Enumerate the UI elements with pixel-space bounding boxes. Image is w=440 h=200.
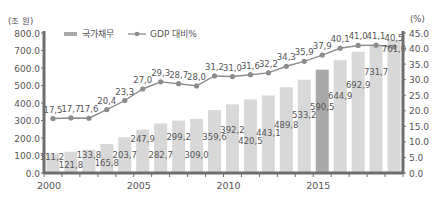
legend-bar-swatch [64, 32, 77, 36]
legend-bar-label: 국가채무 [82, 29, 114, 39]
bar-value-label: 692,9 [346, 80, 370, 90]
right-tick-label: 0.0 [409, 169, 424, 179]
bar [154, 124, 167, 173]
line-value-label: 31,6 [241, 61, 260, 71]
bar [190, 119, 203, 173]
line-value-label: 41,0 [349, 31, 368, 41]
x-tick-label: 2015 [306, 180, 330, 191]
legend: 국가채무GDP 대비% [64, 29, 197, 39]
right-tick-label: 20.0 [409, 106, 429, 116]
line-value-label: 32,2 [259, 59, 278, 69]
bar [370, 45, 383, 173]
left-tick-label: 100.0 [14, 151, 40, 161]
left-tick-label: 400.0 [14, 99, 40, 109]
bar-value-label: 731,7 [364, 67, 388, 77]
debt-chart: 111,2121,8133,8165,8203,7247,9282,7299,2… [0, 0, 440, 200]
line-value-label: 41,1 [367, 31, 386, 41]
bar-value-label: 282,7 [149, 150, 173, 160]
line-marker [194, 83, 199, 88]
x-tick-label: 2010 [216, 180, 240, 191]
left-tick-label: 200.0 [14, 134, 40, 144]
line-marker [284, 64, 289, 69]
line-value-label: 17,6 [79, 104, 98, 114]
bar-value-label: 644,9 [328, 91, 352, 101]
line-marker [104, 107, 109, 112]
line-marker [212, 73, 217, 78]
bar [280, 87, 293, 173]
bar-value-label: 203,7 [113, 150, 137, 160]
line-marker [302, 59, 307, 64]
bar-value-label: 392,2 [220, 125, 244, 135]
line-marker [320, 52, 325, 57]
line-value-label: 40,5 [385, 33, 404, 43]
line-marker [230, 74, 235, 79]
data-labels: 111,2121,8133,8165,8203,7247,9282,7299,2… [40, 31, 406, 170]
chart-canvas: 111,2121,8133,8165,8203,7247,9282,7299,2… [0, 0, 440, 200]
left-tick-label: 600.0 [14, 64, 40, 74]
line-marker [68, 115, 73, 120]
line-marker [140, 86, 145, 91]
bar [352, 52, 365, 173]
bar [334, 60, 347, 173]
line-marker [176, 81, 181, 86]
bar [316, 70, 329, 173]
bar [172, 121, 185, 173]
left-tick-label: 700.0 [14, 46, 40, 56]
bar [298, 80, 311, 173]
line-value-label: 17,5 [44, 105, 63, 115]
line-value-label: 31,2 [205, 62, 224, 72]
legend-line-label: GDP 대비% [150, 29, 197, 39]
right-axis-unit: (%) [410, 14, 425, 24]
bar-value-label: 309,0 [184, 150, 208, 160]
right-tick-label: 5.0 [409, 153, 424, 163]
line-marker [122, 98, 127, 103]
line-marker [266, 70, 271, 75]
bar-value-label: 247,9 [131, 134, 155, 144]
line-value-label: 35,9 [295, 47, 314, 57]
left-axis-unit: (조 원) [8, 16, 33, 26]
bar-value-label: 299,2 [166, 132, 190, 142]
left-tick-label: 500.0 [14, 81, 40, 91]
line-value-label: 31,0 [223, 63, 242, 73]
line-value-label: 29,3 [151, 68, 170, 78]
right-tick-label: 40.0 [409, 44, 429, 54]
bar [388, 40, 401, 173]
right-tick-label: 35.0 [409, 60, 429, 70]
line-marker [356, 43, 361, 48]
bar [226, 104, 239, 173]
line-marker [86, 116, 91, 121]
line-value-label: 20,4 [97, 96, 116, 106]
left-tick-label: 0.0 [26, 169, 41, 179]
right-tick-label: 30.0 [409, 75, 429, 85]
right-tick-label: 45.0 [409, 29, 429, 39]
line-value-label: 34,3 [277, 52, 296, 62]
line-value-label: 23,3 [115, 87, 134, 97]
left-tick-label: 300.0 [14, 116, 40, 126]
legend-line-marker [135, 32, 140, 37]
bar-value-label: 489,8 [274, 120, 298, 130]
right-tick-label: 25.0 [409, 91, 429, 101]
line-value-label: 28,7 [169, 70, 188, 80]
left-tick-label: 800.0 [14, 29, 40, 39]
line-marker [248, 72, 253, 77]
line-value-label: 40,1 [331, 34, 350, 44]
right-tick-label: 10.0 [409, 137, 429, 147]
line-value-label: 17,7 [61, 104, 80, 114]
right-tick-label: 15.0 [409, 122, 429, 132]
x-tick-label: 2000 [37, 180, 61, 191]
line-value-label: 28,0 [187, 72, 206, 82]
line-marker [338, 46, 343, 51]
bar-value-label: 590,5 [310, 102, 334, 112]
line-value-label: 37,9 [313, 41, 332, 51]
line-marker [158, 79, 163, 84]
x-tick-label: 2005 [127, 180, 151, 191]
line-marker [373, 43, 378, 48]
line-marker [50, 116, 55, 121]
bar-value-label: 121,8 [59, 160, 83, 170]
line-value-label: 27,0 [133, 75, 152, 85]
